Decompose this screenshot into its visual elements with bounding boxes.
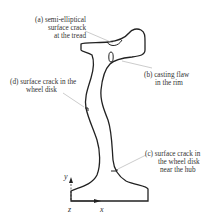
z-axis-label: z: [68, 205, 71, 214]
label-b: (b) casting flaw in the rim: [144, 71, 189, 87]
leader-line-a: [85, 31, 113, 43]
leader-line-c: [118, 155, 146, 169]
casting-flaw-mark: [109, 52, 113, 62]
leader-line-d: [63, 93, 84, 107]
label-c: (c) surface crack in the wheel disk near…: [145, 150, 200, 174]
label-d: (d) surface crack in the wheel disk: [10, 78, 76, 94]
y-axis-arrow: [69, 177, 73, 183]
label-a: (a) semi-elliptical surface crack at the…: [28, 16, 86, 40]
x-axis-arrow: [94, 199, 101, 203]
y-axis-label: y: [64, 172, 68, 181]
x-axis-label: x: [100, 205, 104, 214]
leader-line-b: [122, 61, 152, 68]
wheel-profile-outline: [71, 29, 148, 201]
